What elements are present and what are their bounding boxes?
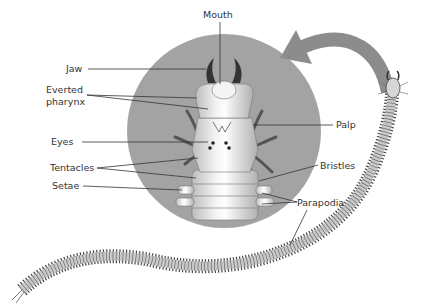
eye-dot bbox=[224, 141, 228, 145]
eye-dot bbox=[211, 141, 215, 145]
label-eyes: Eyes bbox=[51, 136, 73, 147]
eye-dot bbox=[208, 146, 212, 150]
label-everted-pharynx-1: Everted bbox=[46, 84, 83, 95]
label-parapodia: Parapodia bbox=[297, 197, 344, 208]
label-bristles: Bristles bbox=[320, 160, 355, 171]
label-mouth: Mouth bbox=[203, 9, 233, 20]
label-tentacles: Tentacles bbox=[50, 162, 94, 173]
worm-diagram bbox=[0, 0, 440, 308]
label-jaw: Jaw bbox=[66, 63, 82, 74]
label-setae: Setae bbox=[52, 180, 79, 191]
label-palp: Palp bbox=[336, 119, 356, 130]
label-everted-pharynx-2: pharynx bbox=[46, 96, 85, 107]
eye-dot bbox=[227, 146, 231, 150]
